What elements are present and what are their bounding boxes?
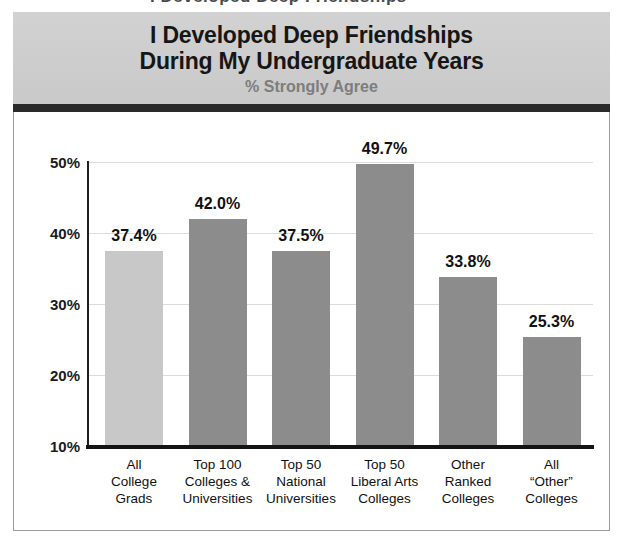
y-axis-tick-50: 50% [50, 154, 80, 171]
x-axis-label-line: Colleges [506, 490, 598, 507]
x-axis-label-line: Top 50 [255, 456, 347, 473]
chart-page: I Developed Deep Friendships I Developed… [0, 0, 632, 551]
plot-area: 37.4%42.0%37.5%49.7%33.8%25.3% [87, 162, 593, 446]
chart-subtitle: % Strongly Agree [245, 77, 378, 96]
x-axis-label-line: Liberal Arts [339, 473, 431, 490]
bar-5[interactable]: 33.8% [439, 162, 497, 446]
bar-1[interactable]: 37.4% [105, 162, 163, 446]
x-axis-label-line: All [506, 456, 598, 473]
x-axis-label-line: College [88, 473, 180, 490]
bar-value-label: 49.7% [342, 140, 428, 158]
bar-fill [356, 164, 414, 446]
chart-title-line-1: I Developed Deep Friendships [150, 22, 473, 48]
x-axis-label-2: Top 100Colleges &Universities [172, 456, 264, 507]
bar-2[interactable]: 42.0% [189, 162, 247, 446]
x-axis-label-line: Universities [255, 490, 347, 507]
y-axis-tick-20: 20% [50, 367, 80, 384]
x-axis-label-line: Other [422, 456, 514, 473]
x-axis-label-6: All“Other”Colleges [506, 456, 598, 507]
x-axis-label-line: All [88, 456, 180, 473]
bar-3[interactable]: 37.5% [272, 162, 330, 446]
x-axis-label-3: Top 50NationalUniversities [255, 456, 347, 507]
bar-fill [439, 277, 497, 446]
x-axis-label-4: Top 50Liberal ArtsColleges [339, 456, 431, 507]
bar-fill [272, 251, 330, 446]
y-axis-line [87, 161, 89, 447]
x-axis-label-line: Colleges [339, 490, 431, 507]
y-axis-tick-30: 30% [50, 296, 80, 313]
bar-value-label: 37.4% [91, 227, 177, 245]
chart-header-band: I Developed Deep Friendships During My U… [13, 12, 610, 105]
x-axis-label-line: Universities [172, 490, 264, 507]
x-axis-label-line: National [255, 473, 347, 490]
x-axis-label-line: Grads [88, 490, 180, 507]
x-axis-line [86, 445, 594, 449]
top-cropped-text-fragment: I Developed Deep Friendships [150, 0, 407, 7]
x-axis-label-line: Colleges & [172, 473, 264, 490]
x-axis-label-line: Colleges [422, 490, 514, 507]
bar-4[interactable]: 49.7% [356, 162, 414, 446]
bar-6[interactable]: 25.3% [523, 162, 581, 446]
x-axis-label-1: AllCollegeGrads [88, 456, 180, 507]
y-axis-tick-10: 10% [50, 438, 80, 455]
top-cropped-text: I Developed Deep Friendships [0, 0, 632, 11]
x-axis-label-line: Ranked [422, 473, 514, 490]
chart-title-line-2: During My Undergraduate Years [140, 48, 484, 74]
bar-value-label: 25.3% [509, 313, 595, 331]
header-divider-rule [13, 104, 610, 112]
x-axis-label-5: OtherRankedColleges [422, 456, 514, 507]
bar-value-label: 33.8% [425, 253, 511, 271]
bar-fill [189, 219, 247, 446]
bar-fill [523, 337, 581, 446]
bar-fill [105, 251, 163, 446]
x-axis-label-line: “Other” [506, 473, 598, 490]
x-axis-label-line: Top 100 [172, 456, 264, 473]
y-axis-tick-labels: 10%20%30%40%50% [0, 0, 80, 551]
bar-value-label: 42.0% [175, 195, 261, 213]
x-axis-label-line: Top 50 [339, 456, 431, 473]
bar-value-label: 37.5% [258, 227, 344, 245]
y-axis-tick-40: 40% [50, 225, 80, 242]
